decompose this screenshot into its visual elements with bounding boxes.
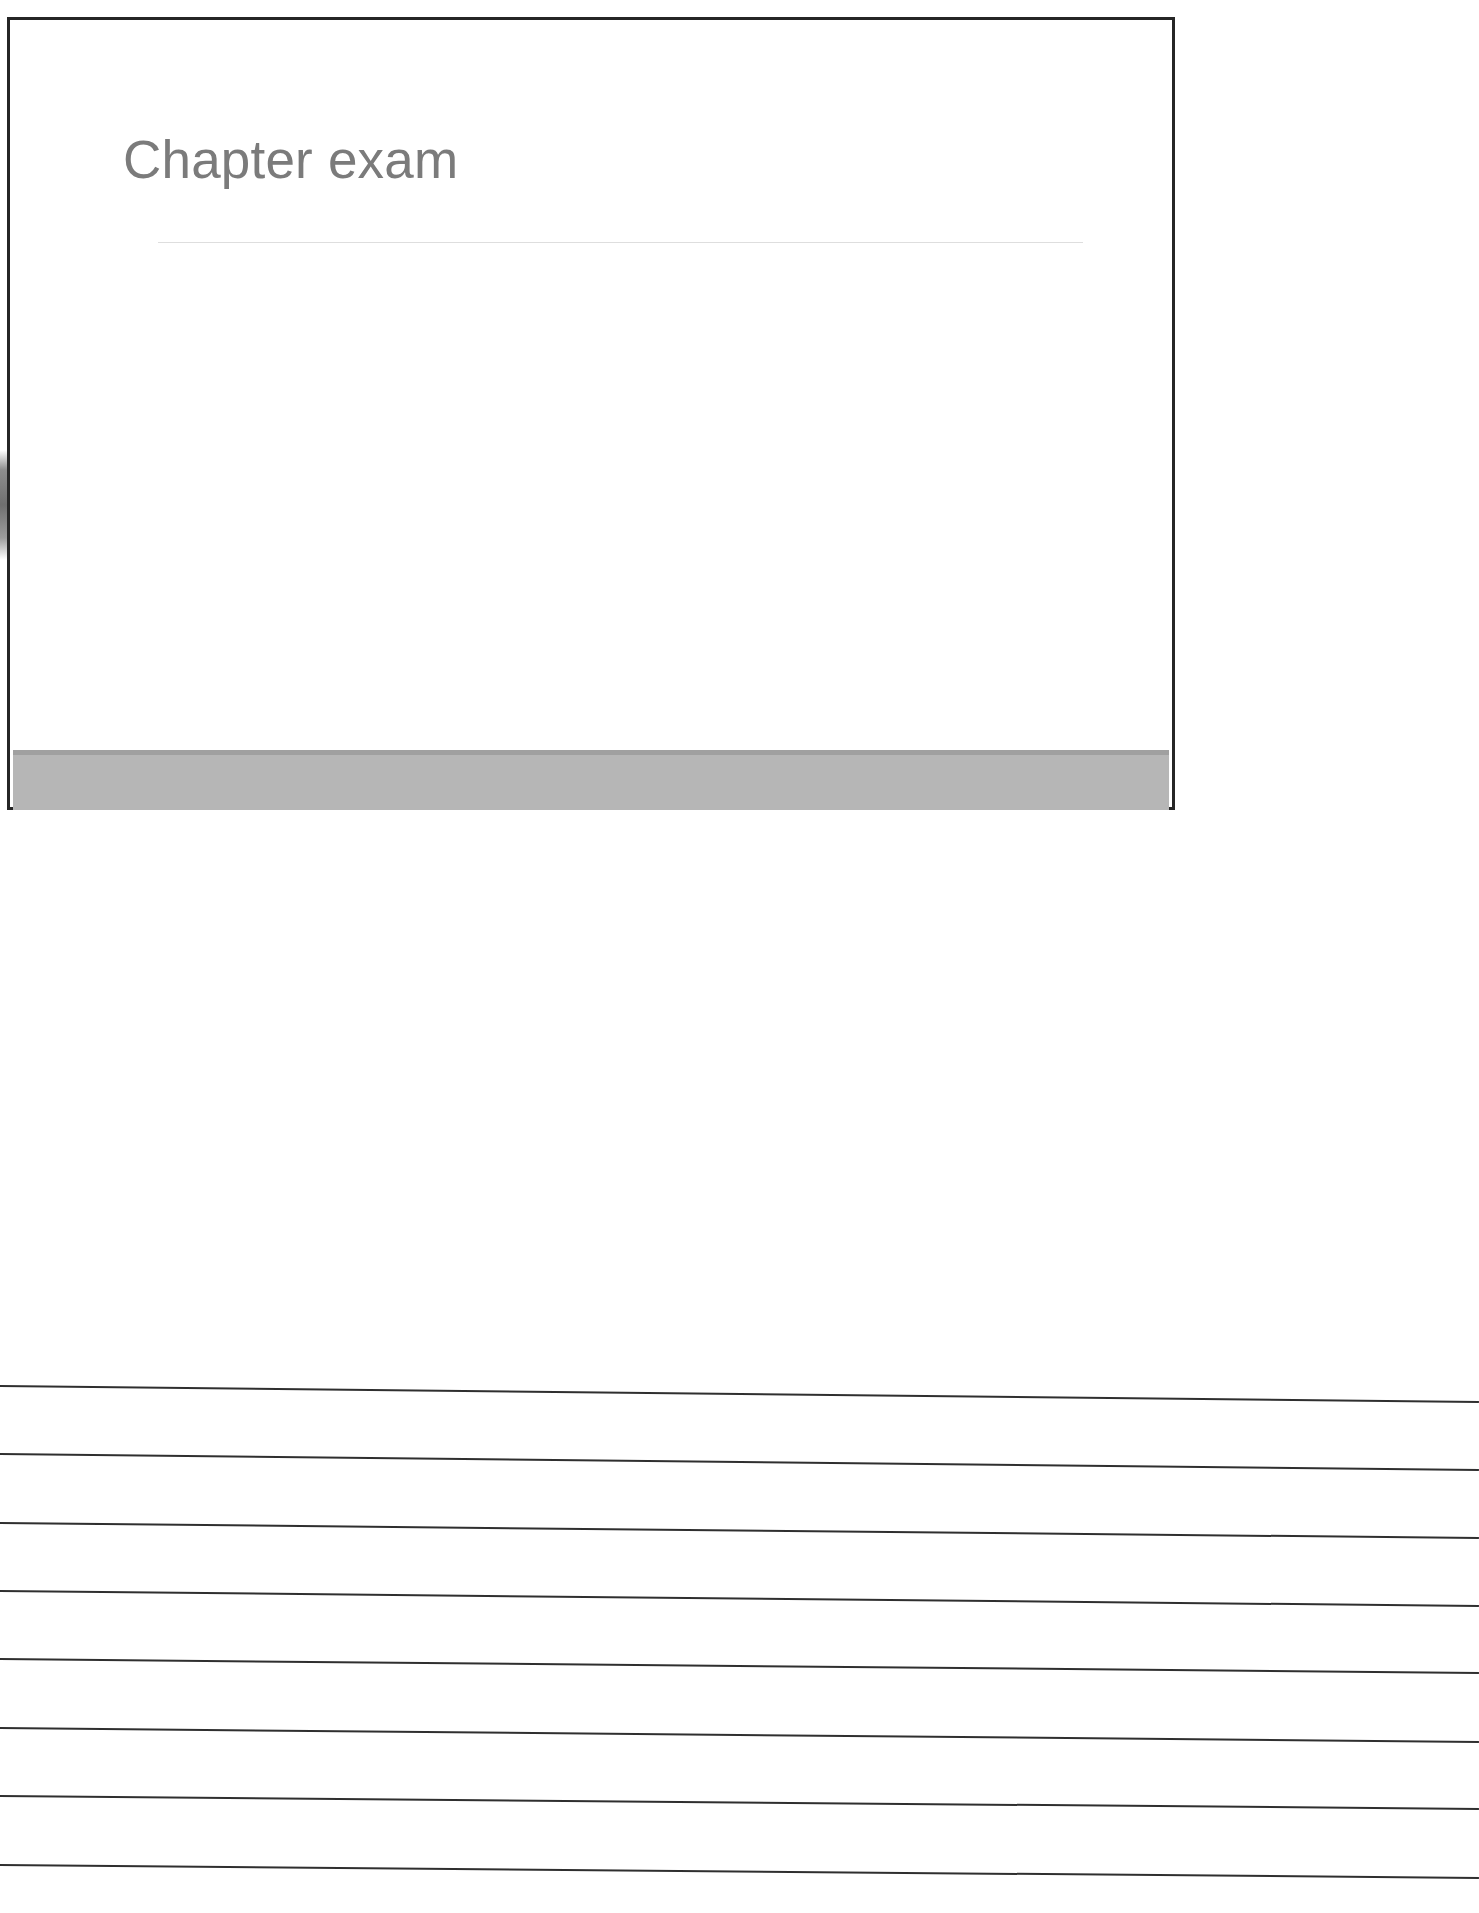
- slide-footer-band: [13, 750, 1169, 810]
- note-line: [0, 1385, 1479, 1403]
- slide-title: Chapter exam: [123, 130, 1063, 189]
- title-underline-rule: [158, 242, 1083, 243]
- note-line: [0, 1727, 1479, 1743]
- note-line: [0, 1522, 1479, 1539]
- slide-body: Chapter exam: [10, 20, 1172, 807]
- slide-frame[interactable]: Chapter exam: [7, 17, 1175, 810]
- note-line: [0, 1590, 1479, 1607]
- note-line: [0, 1864, 1479, 1879]
- note-line: [0, 1795, 1479, 1810]
- scan-edge-smudge: [0, 450, 7, 560]
- handout-page: Chapter exam: [0, 0, 1479, 1913]
- note-line: [0, 1453, 1479, 1471]
- notes-lines-area: [0, 1340, 1479, 1913]
- note-line: [0, 1658, 1479, 1674]
